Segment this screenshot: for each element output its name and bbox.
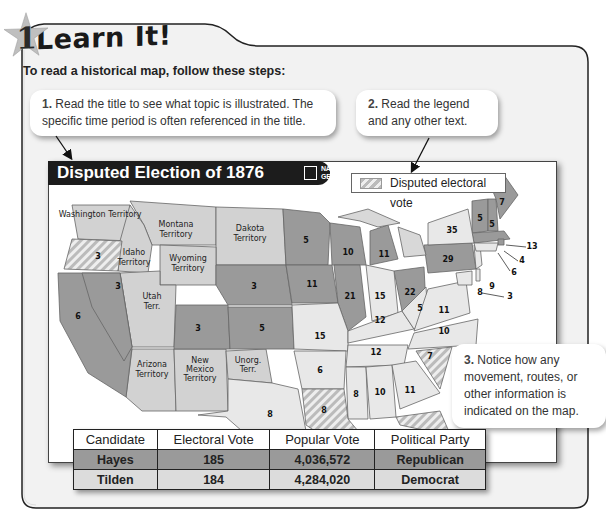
- legend-label: Disputed electoral vote: [390, 173, 505, 213]
- svg-text:9: 9: [489, 282, 495, 291]
- col-political-party: Political Party: [375, 430, 486, 450]
- natgeo-logo-icon: [304, 166, 317, 180]
- map-title: Disputed Election of 1876: [57, 163, 264, 182]
- svg-text:Territory: Territory: [170, 264, 204, 273]
- svg-text:Arizona: Arizona: [137, 360, 167, 369]
- svg-text:7: 7: [427, 352, 433, 361]
- svg-text:Territory: Territory: [116, 258, 150, 267]
- missouri: [292, 303, 348, 351]
- svg-text:22: 22: [404, 288, 415, 297]
- svg-text:15: 15: [314, 332, 326, 341]
- col-candidate: Candidate: [74, 430, 158, 450]
- svg-text:11: 11: [378, 250, 390, 259]
- svg-text:Wyoming: Wyoming: [169, 254, 207, 263]
- svg-text:Territory: Territory: [134, 370, 168, 379]
- svg-text:6: 6: [317, 366, 323, 375]
- svg-text:Idaho: Idaho: [123, 248, 145, 257]
- col-electoral-vote: Electoral Vote: [157, 430, 270, 450]
- svg-text:Washington Territory: Washington Territory: [59, 210, 142, 219]
- svg-text:3: 3: [251, 282, 257, 291]
- svg-text:13: 13: [526, 242, 537, 251]
- svg-text:Territory: Territory: [232, 234, 266, 243]
- table-row: Hayes 185 4,036,572 Republican: [74, 450, 486, 470]
- wisconsin: [330, 223, 366, 265]
- svg-text:Unorg.: Unorg.: [235, 356, 262, 365]
- svg-text:12: 12: [370, 348, 381, 357]
- svg-text:8: 8: [477, 288, 483, 297]
- col-popular-vote: Popular Vote: [270, 430, 375, 450]
- svg-text:8: 8: [353, 390, 359, 399]
- svg-text:10: 10: [438, 327, 450, 336]
- delaware: [476, 269, 480, 281]
- svg-text:3: 3: [115, 282, 121, 291]
- svg-text:6: 6: [75, 312, 81, 321]
- colorado: [174, 305, 230, 349]
- svg-text:1: 1: [16, 20, 37, 56]
- election-results-table: Candidate Electoral Vote Popular Vote Po…: [73, 429, 486, 490]
- table-row: Tilden 184 4,284,020 Democrat: [74, 470, 486, 490]
- svg-text:11: 11: [438, 306, 450, 315]
- svg-text:35: 35: [446, 226, 458, 235]
- svg-text:15: 15: [374, 292, 386, 301]
- svg-text:3: 3: [195, 324, 201, 333]
- svg-text:4: 4: [519, 256, 525, 265]
- star-icon: 1: [2, 10, 50, 60]
- section-heading: 1 Learn It!: [36, 20, 171, 56]
- svg-text:5: 5: [477, 214, 483, 223]
- svg-text:21: 21: [344, 292, 356, 301]
- table-header-row: Candidate Electoral Vote Popular Vote Po…: [74, 430, 486, 450]
- svg-text:12: 12: [374, 316, 385, 325]
- oregon-disputed: [64, 239, 122, 271]
- svg-text:3: 3: [507, 292, 513, 301]
- callout-step-2: 2. Read the legend and any other text.: [356, 90, 498, 136]
- svg-text:3: 3: [95, 252, 101, 261]
- arizona-territory: [126, 349, 176, 411]
- svg-text:Dakota: Dakota: [236, 224, 264, 233]
- connecticut: [474, 243, 498, 251]
- svg-text:Terr.: Terr.: [143, 302, 161, 311]
- svg-text:11: 11: [306, 280, 318, 289]
- hatch-swatch-icon: [360, 178, 382, 189]
- svg-text:Montana: Montana: [159, 220, 194, 229]
- svg-text:5: 5: [489, 220, 495, 229]
- svg-text:Mexico: Mexico: [186, 365, 214, 374]
- svg-text:5: 5: [259, 324, 265, 333]
- map-title-bar: Disputed Election of 1876 NATIONAL GEOGR…: [48, 161, 330, 185]
- michigan: [370, 225, 398, 265]
- svg-text:29: 29: [442, 255, 454, 264]
- intro-text: To read a historical map, follow these s…: [23, 64, 285, 78]
- callout-step-3: 3. Notice how any movement, routes, or o…: [452, 344, 606, 428]
- svg-text:Territory: Territory: [158, 230, 192, 239]
- svg-text:6: 6: [511, 268, 517, 277]
- svg-text:Terr.: Terr.: [239, 365, 257, 374]
- svg-text:10: 10: [342, 248, 354, 257]
- svg-text:8: 8: [321, 406, 327, 415]
- svg-text:5: 5: [303, 236, 309, 245]
- maryland: [456, 271, 472, 285]
- map-legend: Disputed electoral vote: [351, 173, 506, 193]
- heading-title: Learn It!: [36, 20, 171, 56]
- svg-text:5: 5: [417, 304, 423, 313]
- svg-text:Utah: Utah: [143, 292, 162, 301]
- svg-text:8: 8: [267, 410, 273, 419]
- svg-text:11: 11: [404, 386, 416, 395]
- svg-text:New: New: [191, 356, 209, 365]
- rhode-island: [498, 239, 504, 245]
- callout-step-1: 1. Read the title to see what topic is i…: [30, 90, 336, 136]
- svg-text:Territory: Territory: [182, 374, 216, 383]
- svg-text:10: 10: [374, 388, 386, 397]
